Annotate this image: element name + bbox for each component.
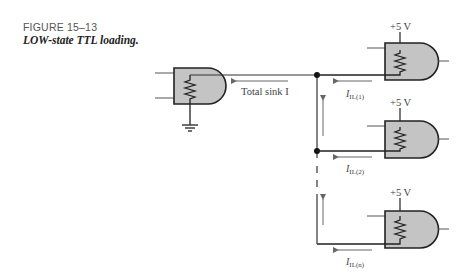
current-label-2: IIL(2) <box>345 163 365 176</box>
supply-label: +5 V <box>390 97 412 108</box>
ground-icon <box>182 125 198 131</box>
load-gate-1: +5 V IIL(1) <box>317 21 449 101</box>
supply-label: +5 V <box>390 187 412 198</box>
total-sink-label: Total sink I <box>241 86 289 97</box>
current-label-1: IIL(1) <box>345 88 365 101</box>
ttl-loading-diagram: Total sink I +5 V IIL(1) +5 V IIL(2) +5 … <box>0 0 473 280</box>
supply-label: +5 V <box>390 21 412 32</box>
load-gate-2: +5 V IIL(2) <box>317 97 449 176</box>
load-gate-3: +5 V IIL(n) <box>317 187 449 269</box>
driving-gate <box>155 68 317 131</box>
current-label-3: IIL(n) <box>345 256 365 269</box>
